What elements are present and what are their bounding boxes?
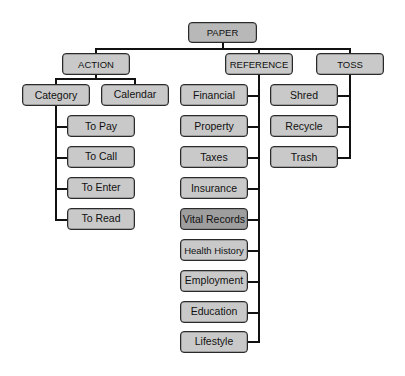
- connector: [248, 219, 260, 221]
- connector: [338, 157, 351, 159]
- node-employment: Employment: [180, 270, 248, 292]
- connector: [258, 75, 260, 343]
- connector: [248, 126, 260, 128]
- node-property: Property: [180, 115, 248, 137]
- connector: [248, 341, 260, 343]
- node-vital-records: Vital Records: [180, 208, 248, 230]
- node-trash: Trash: [270, 146, 338, 168]
- node-category: Category: [22, 84, 90, 106]
- node-toss: TOSS: [316, 53, 384, 75]
- connector: [55, 188, 67, 190]
- connector: [55, 157, 67, 159]
- node-insurance: Insurance: [180, 177, 248, 199]
- connector: [55, 78, 135, 80]
- connector: [248, 312, 260, 314]
- connector: [248, 95, 260, 97]
- connector: [248, 281, 260, 283]
- node-financial: Financial: [180, 84, 248, 106]
- connector: [55, 106, 57, 220]
- node-taxes: Taxes: [180, 146, 248, 168]
- node-recycle: Recycle: [270, 115, 338, 137]
- node-to-call: To Call: [67, 146, 135, 168]
- connector: [349, 75, 351, 159]
- connector: [55, 219, 67, 221]
- node-shred: Shred: [270, 84, 338, 106]
- node-paper: PAPER: [188, 22, 257, 43]
- node-education: Education: [180, 301, 248, 323]
- connector: [338, 95, 351, 97]
- node-to-enter: To Enter: [67, 177, 135, 199]
- node-to-pay: To Pay: [67, 115, 135, 137]
- connector: [95, 48, 351, 50]
- connector: [248, 250, 260, 252]
- node-action: ACTION: [62, 53, 130, 75]
- node-lifestyle: Lifestyle: [180, 331, 248, 353]
- connector: [55, 126, 67, 128]
- connector: [248, 157, 260, 159]
- node-reference: REFERENCE: [225, 53, 293, 75]
- node-health-history: Health History: [180, 239, 248, 261]
- node-calendar: Calendar: [101, 84, 169, 106]
- connector: [338, 126, 351, 128]
- node-to-read: To Read: [67, 208, 135, 230]
- paper-organization-diagram: PAPER ACTION REFERENCE TOSS Category Cal…: [0, 0, 405, 376]
- connector: [248, 188, 260, 190]
